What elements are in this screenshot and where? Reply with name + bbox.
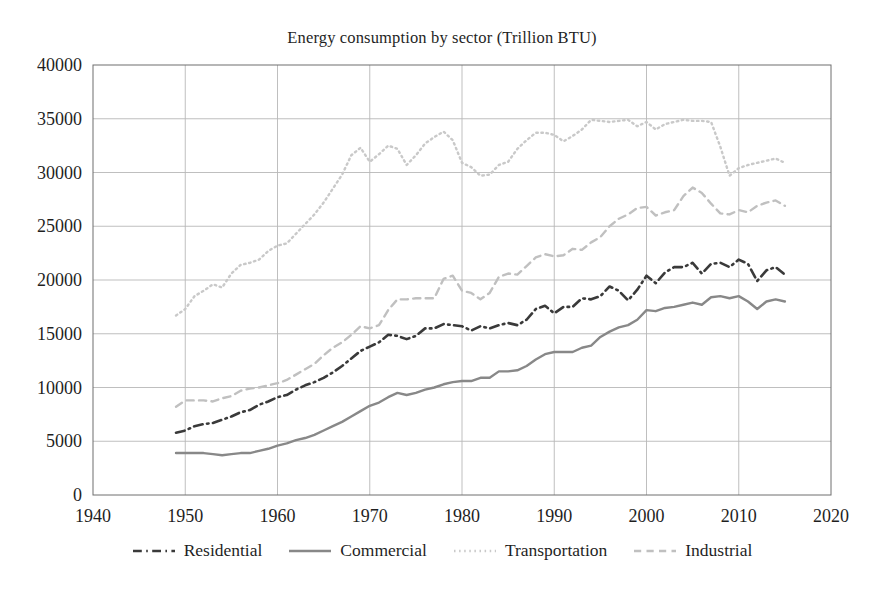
- legend-label: Commercial: [340, 540, 427, 561]
- plot-area: [0, 0, 884, 592]
- y-tick-label: 15000: [0, 323, 82, 344]
- legend-label: Residential: [184, 540, 263, 561]
- legend-swatch-industrial: [633, 544, 677, 558]
- series-lines: [176, 120, 785, 455]
- x-tick-label: 2000: [629, 506, 665, 527]
- series-line-industrial: [176, 188, 785, 407]
- y-tick-label: 0: [0, 485, 82, 506]
- legend-swatch-transportation: [453, 544, 497, 558]
- y-tick-label: 25000: [0, 216, 82, 237]
- y-tick-label: 35000: [0, 108, 82, 129]
- y-tick-label: 10000: [0, 377, 82, 398]
- x-tick-label: 1980: [444, 506, 480, 527]
- legend-swatch-residential: [132, 544, 176, 558]
- legend-label: Industrial: [685, 540, 752, 561]
- series-line-transportation: [176, 120, 785, 316]
- x-tick-label: 2010: [721, 506, 757, 527]
- gridlines: [93, 65, 831, 495]
- y-tick-label: 5000: [0, 431, 82, 452]
- chart-legend: ResidentialCommercialTransportationIndus…: [0, 540, 884, 561]
- series-line-residential: [176, 260, 785, 433]
- legend-item-residential[interactable]: Residential: [132, 540, 263, 561]
- y-tick-label: 40000: [0, 55, 82, 76]
- y-tick-label: 30000: [0, 162, 82, 183]
- x-tick-label: 1990: [536, 506, 572, 527]
- y-tick-label: 20000: [0, 270, 82, 291]
- chart-figure: Energy consumption by sector (Trillion B…: [0, 0, 884, 592]
- legend-item-industrial[interactable]: Industrial: [633, 540, 752, 561]
- legend-swatch-commercial: [288, 544, 332, 558]
- x-tick-label: 2020: [813, 506, 849, 527]
- legend-label: Transportation: [505, 540, 607, 561]
- x-tick-label: 1950: [167, 506, 203, 527]
- x-tick-label: 1940: [75, 506, 111, 527]
- x-tick-label: 1960: [260, 506, 296, 527]
- legend-item-commercial[interactable]: Commercial: [288, 540, 427, 561]
- x-tick-label: 1970: [352, 506, 388, 527]
- series-line-commercial: [176, 296, 785, 455]
- legend-item-transportation[interactable]: Transportation: [453, 540, 607, 561]
